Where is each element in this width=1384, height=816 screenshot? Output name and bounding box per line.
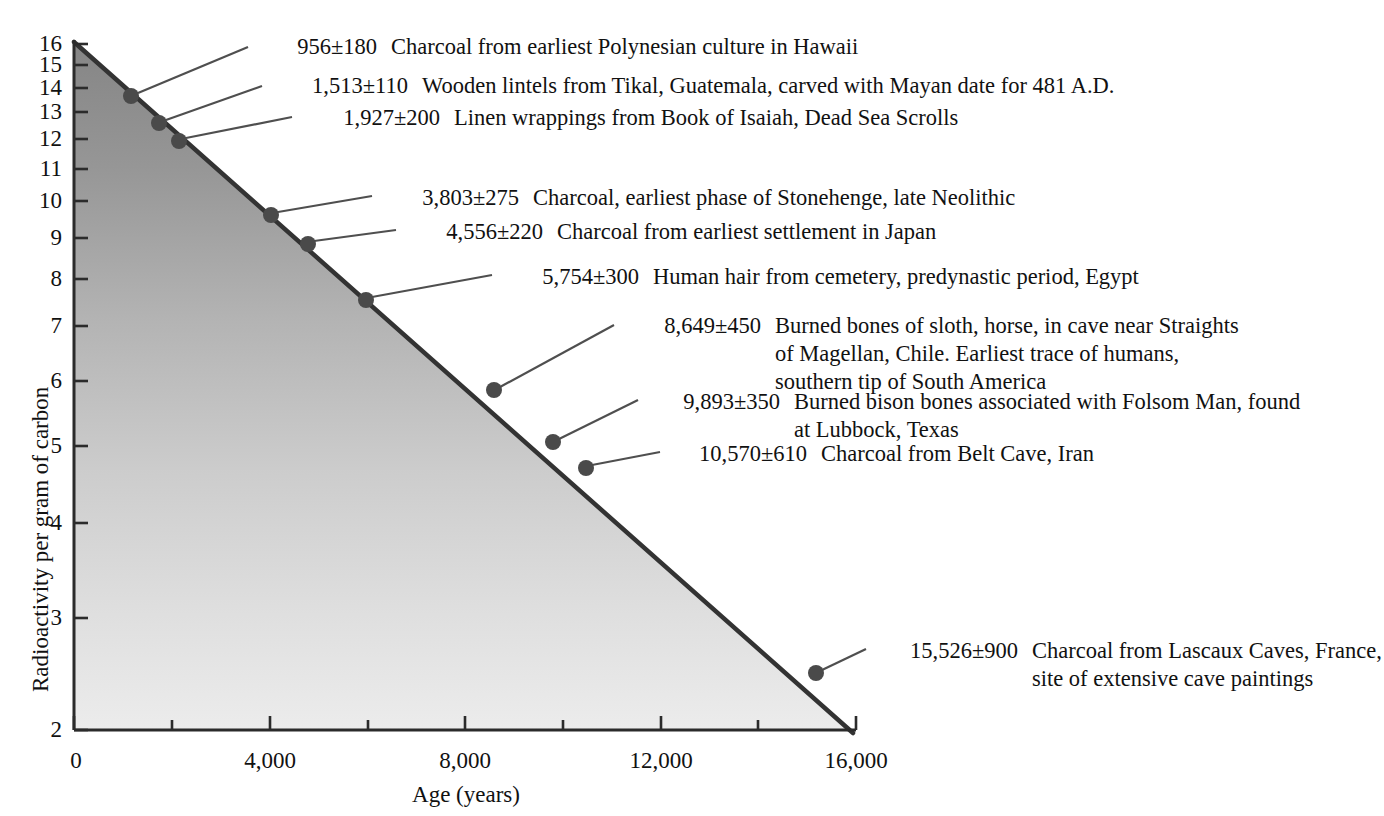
annotation-label: 4,556±220 <box>401 218 557 246</box>
leader-line-1 <box>166 86 262 120</box>
annotation-text: Charcoal from earliest Polynesian cultur… <box>391 33 858 61</box>
annotation-text: Burned bison bones associated with Folso… <box>794 388 1300 444</box>
annotation-label: 1,927±200 <box>298 104 454 132</box>
annotation-text: Wooden lintels from Tikal, Guatemala, ca… <box>422 72 1114 100</box>
annotation-8: 10,570±610 Charcoal from Belt Cave, Iran <box>655 440 1094 468</box>
annotation-label: 3,803±275 <box>377 184 533 212</box>
data-point <box>300 236 316 252</box>
x-tick-label-0: 0 <box>70 749 82 772</box>
x-tick-label-16000: 16,000 <box>824 749 887 772</box>
annotation-text: Linen wrappings from Book of Isaiah, Dea… <box>454 104 958 132</box>
annotation-text: Charcoal from Belt Cave, Iran <box>821 440 1094 468</box>
leader-line-8 <box>592 452 660 465</box>
annotation-text: Burned bones of sloth, horse, in cave ne… <box>775 312 1239 396</box>
x-tick-label-12000: 12,000 <box>629 749 692 772</box>
annotation-text: Human hair from cemetery, predynastic pe… <box>653 263 1139 291</box>
x-tick-label-8000: 8,000 <box>439 749 491 772</box>
annotation-2: 1,927±200 Linen wrappings from Book of I… <box>298 104 958 132</box>
data-point <box>578 460 594 476</box>
annotation-label: 956±180 <box>252 33 391 61</box>
y-tick-label-11: 11 <box>16 157 62 180</box>
annotation-5: 5,754±300 Human hair from cemetery, pred… <box>497 263 1139 291</box>
y-tick-label-8: 8 <box>16 267 62 290</box>
leader-line-2 <box>186 117 292 138</box>
annotation-6: 8,649±450 Burned bones of sloth, horse, … <box>619 312 1239 396</box>
data-point <box>358 292 374 308</box>
annotation-label: 8,649±450 <box>619 312 775 340</box>
annotation-text: Charcoal from Lascaux Caves, France, sit… <box>1032 637 1382 693</box>
data-point <box>151 115 167 131</box>
y-tick-label-14: 14 <box>16 76 62 99</box>
leader-line-0 <box>138 47 248 93</box>
data-point <box>808 665 824 681</box>
annotation-4: 4,556±220 Charcoal from earliest settlem… <box>401 218 936 246</box>
y-tick-label-13: 13 <box>16 100 62 123</box>
leader-line-6 <box>500 325 614 387</box>
annotation-7: 9,893±350 Burned bison bones associated … <box>625 388 1300 444</box>
x-axis-title: Age (years) <box>412 782 520 808</box>
annotation-1: 1,513±110 Wooden lintels from Tikal, Gua… <box>268 72 1114 100</box>
y-tick-label-15: 15 <box>16 53 62 76</box>
leader-line-5 <box>372 275 492 297</box>
data-point <box>123 88 139 104</box>
annotation-label: 15,526±900 <box>866 637 1032 665</box>
annotation-0: 956±180 Charcoal from earliest Polynesia… <box>252 33 858 61</box>
annotation-3: 3,803±275 Charcoal, earliest phase of St… <box>377 184 1015 212</box>
annotation-label: 1,513±110 <box>268 72 422 100</box>
annotation-text: Charcoal, earliest phase of Stonehenge, … <box>533 184 1015 212</box>
leader-line-4 <box>314 230 396 241</box>
y-tick-label-7: 7 <box>16 314 62 337</box>
y-axis-title: Radioactivity per gram of carbon <box>28 387 54 692</box>
data-point <box>263 207 279 223</box>
annotation-label: 10,570±610 <box>655 440 821 468</box>
annotation-9: 15,526±900 Charcoal from Lascaux Caves, … <box>866 637 1382 693</box>
carbon-dating-chart: 16 15 14 13 12 11 10 9 8 7 6 5 4 3 2 0 4… <box>0 0 1384 816</box>
data-point <box>486 382 502 398</box>
annotation-label: 9,893±350 <box>625 388 794 416</box>
leader-line-9 <box>822 649 866 670</box>
y-tick-label-9: 9 <box>16 226 62 249</box>
leader-line-3 <box>278 196 372 212</box>
data-point <box>545 434 561 450</box>
y-tick-label-10: 10 <box>16 189 62 212</box>
y-tick-label-2: 2 <box>16 718 62 741</box>
data-point <box>171 133 187 149</box>
annotation-text: Charcoal from earliest settlement in Jap… <box>557 218 936 246</box>
y-tick-label-12: 12 <box>16 127 62 150</box>
annotation-label: 5,754±300 <box>497 263 653 291</box>
x-tick-label-4000: 4,000 <box>244 749 296 772</box>
